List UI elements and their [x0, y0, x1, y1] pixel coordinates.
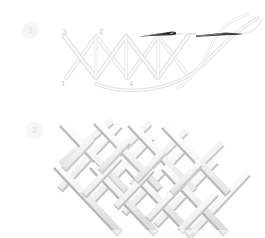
stitch-point-label-2: 2: [99, 27, 103, 36]
step-2-illustration: [0, 110, 265, 238]
stitch-point-label-4: 4: [129, 79, 133, 88]
stitch-point-label-1: 1: [61, 79, 65, 88]
stitch-point-label-3: 3: [62, 27, 66, 36]
step-1-panel: 1: [0, 0, 265, 112]
step-1-illustration: [0, 0, 265, 112]
thread-connectors: [96, 36, 158, 78]
bottom-fade: [0, 230, 265, 238]
diagram-canvas: 1: [0, 0, 265, 238]
step-2-panel: 2: [0, 110, 265, 238]
